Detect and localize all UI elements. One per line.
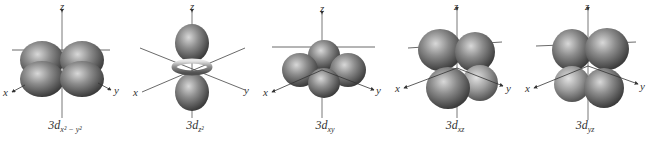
orbital-panel-dyz: z x y 3dyz <box>520 0 650 142</box>
z-axis-label: z <box>189 0 195 12</box>
lobe <box>20 61 64 97</box>
orbital-panel-dxz: z x y 3dxz <box>390 0 520 142</box>
x-axis <box>12 85 25 92</box>
orbital-panel-dx2-y2: z x y 3dx² − y² <box>0 0 130 142</box>
z-axis-label: z <box>584 0 590 12</box>
orbital-label-dxy: 3dxy <box>260 118 390 134</box>
orbital-label-dz2: 3dz² <box>130 118 260 134</box>
x-axis-label: x <box>394 82 400 94</box>
orbital-label-dxz: 3dxz <box>390 118 520 134</box>
x-axis-label: x <box>132 86 138 98</box>
x-axis-label: x <box>524 82 530 94</box>
orbital-label-dx2-y2: 3dx² − y² <box>0 118 130 134</box>
x-axis-label: x <box>2 86 8 98</box>
x-axis-label: x <box>262 86 268 98</box>
lobe <box>60 61 104 97</box>
z-axis-label: z <box>453 0 459 12</box>
y-axis-label: y <box>375 84 381 96</box>
orbital-panel-dxy: z x y 3dxy <box>260 0 390 142</box>
lobe <box>426 67 470 109</box>
front-lobe <box>308 68 340 98</box>
y-axis-label: y <box>113 84 119 96</box>
z-axis-label: z <box>59 0 65 12</box>
y-axis-label: y <box>505 82 511 94</box>
lobe <box>584 68 624 108</box>
orbital-label-dyz: 3dyz <box>520 118 650 134</box>
upper-lobe <box>175 24 209 62</box>
orbital-panel-dz2: z x y 3dz² <box>130 0 260 142</box>
lower-lobe <box>175 73 209 111</box>
y-axis-label: y <box>639 80 645 92</box>
y-axis-label: y <box>243 84 249 96</box>
lobe <box>585 28 629 70</box>
z-axis-label: z <box>319 2 325 14</box>
